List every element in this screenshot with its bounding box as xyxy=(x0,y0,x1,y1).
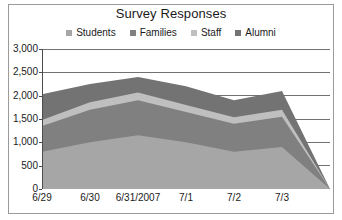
y-axis-labels: 3,0002,5002,0001,5001,0005000 xyxy=(0,0,38,220)
x-tick-label: 7/3 xyxy=(275,192,289,203)
y-tick-label: 1,000 xyxy=(0,137,38,147)
plot-wrapper: 3,0002,5002,0001,5001,0005000 6/296/306/… xyxy=(0,0,342,220)
y-tick-mark xyxy=(39,142,42,143)
plot-area xyxy=(42,49,330,189)
x-tick-label: 6/29 xyxy=(32,192,51,203)
x-tick-label: 6/30 xyxy=(80,192,99,203)
x-tick-label: 6/31/2007 xyxy=(116,192,161,203)
y-tick-label: 1,500 xyxy=(0,114,38,124)
y-tick-mark xyxy=(39,189,42,190)
x-tick-label: 7/2 xyxy=(227,192,241,203)
y-tick-label: 2,500 xyxy=(0,67,38,77)
y-tick-mark xyxy=(39,119,42,120)
area-chart-svg xyxy=(42,49,330,189)
y-tick-label: 2,000 xyxy=(0,91,38,101)
y-tick-mark xyxy=(39,96,42,97)
y-tick-mark xyxy=(39,72,42,73)
y-tick-mark xyxy=(39,166,42,167)
y-tick-mark xyxy=(39,49,42,50)
y-tick-label: 500 xyxy=(0,161,38,171)
x-tick-label: 7/1 xyxy=(179,192,193,203)
x-axis-labels: 6/296/306/31/20077/17/27/3 xyxy=(42,191,330,207)
y-tick-label: 3,000 xyxy=(0,44,38,54)
